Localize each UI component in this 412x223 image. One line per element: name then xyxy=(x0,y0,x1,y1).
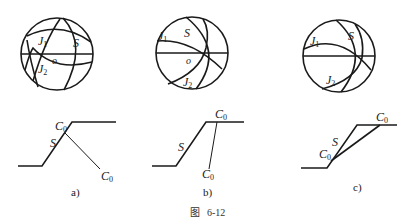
c0-line xyxy=(65,133,100,169)
panel-label-c: c) xyxy=(353,181,362,194)
section-b: C0 C0 S b) xyxy=(152,107,244,199)
section-c: C0 C0 S c) xyxy=(301,110,397,194)
label-c0-top: C0 xyxy=(215,107,227,122)
label-c0-bottom: C0 xyxy=(202,167,214,182)
label-j2: J2 xyxy=(183,75,192,90)
label-o: o xyxy=(52,55,57,66)
label-j1: J1 xyxy=(158,29,167,44)
c0-line xyxy=(331,125,380,161)
label-s: S xyxy=(332,135,338,149)
panel-label-a: a) xyxy=(71,186,80,199)
caption-prefix: 图 xyxy=(190,207,200,218)
j2-great-circle xyxy=(25,48,92,70)
j1-great-circle xyxy=(27,29,91,42)
section-a: C0 C0 S a) xyxy=(18,119,116,199)
label-s: S xyxy=(184,26,190,40)
label-s: S xyxy=(50,136,56,150)
c0-line xyxy=(209,122,217,169)
label-j1: J1 xyxy=(310,34,319,49)
stereonet-b: J1 J2 S o xyxy=(156,17,228,90)
figure-caption: 图 6-12 xyxy=(190,207,225,218)
label-s: S xyxy=(348,29,354,43)
label-j2: J2 xyxy=(38,62,47,77)
caption-number: 6-12 xyxy=(207,207,225,218)
slope-profile xyxy=(152,122,244,166)
label-j2: J2 xyxy=(326,73,335,88)
label-c0-bottom: C0 xyxy=(101,169,113,184)
slope-profile xyxy=(301,125,397,168)
label-c0-top: C0 xyxy=(376,110,388,125)
label-j1: J1 xyxy=(38,34,47,49)
label-o: o xyxy=(186,55,191,66)
panel-label-b: b) xyxy=(203,186,213,199)
stereonet-a: J1 J2 S o xyxy=(21,18,93,90)
label-c0-bottom: C0 xyxy=(319,147,331,162)
label-c0-top: C0 xyxy=(55,119,67,134)
figure-6-12: J1 J2 S o J1 J2 S o J1 J2 S C0 C0 S a) xyxy=(0,0,412,223)
label-s: S xyxy=(178,140,184,154)
label-s: S xyxy=(73,36,79,50)
stereonet-c: J1 J2 S xyxy=(303,20,375,92)
